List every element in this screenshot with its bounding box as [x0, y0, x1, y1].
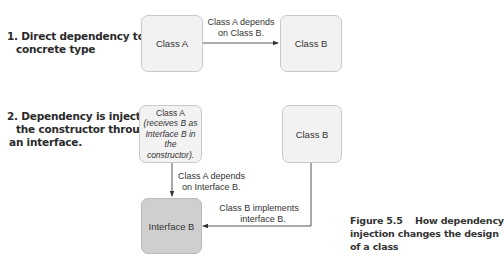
- interface-b-label: Interface B: [149, 221, 195, 232]
- class-a-subtitle: Interface B in: [140, 129, 201, 140]
- depends-on-interface-label: Class A depends on Interface B.: [178, 171, 245, 193]
- class-b-label: Class B: [296, 129, 329, 140]
- section1-heading: 1. Direct dependency to a concrete type: [7, 30, 155, 56]
- class-b-box: Class B: [280, 15, 342, 72]
- label-line: on Class B.: [206, 28, 276, 39]
- label-line: Class B implements: [215, 203, 303, 214]
- depends-on-class-b-label: Class A depends on Class B.: [206, 17, 276, 39]
- figure-caption: Figure 5.5 How dependency injection chan…: [350, 214, 504, 253]
- label-line: Class A depends: [206, 17, 276, 28]
- label-line: on Interface B.: [178, 182, 245, 193]
- class-b-implementer-box: Class B: [282, 105, 342, 163]
- label-line: Class A depends: [178, 171, 245, 182]
- interface-b-box: Interface B: [141, 198, 202, 254]
- label-line: interface B.: [215, 214, 303, 225]
- class-a-title: Class A: [140, 108, 201, 119]
- caption-line: injection changes the design: [350, 227, 504, 240]
- heading-line: 1. Direct dependency to a: [7, 30, 155, 42]
- class-a-subtitle: the constructor).: [140, 139, 201, 160]
- class-b-label: Class B: [295, 38, 328, 49]
- implements-interface-label: Class B implements interface B.: [215, 203, 303, 225]
- class-a-subtitle: (receives B as: [140, 118, 201, 129]
- class-a-injected-box: Class A (receives B as Interface B in th…: [139, 105, 202, 163]
- caption-line: of a class: [350, 240, 504, 253]
- caption-line: Figure 5.5 How dependency: [350, 214, 504, 227]
- class-a-box: Class A: [141, 15, 203, 72]
- heading-line: concrete type: [7, 43, 155, 56]
- class-a-label: Class A: [156, 38, 188, 49]
